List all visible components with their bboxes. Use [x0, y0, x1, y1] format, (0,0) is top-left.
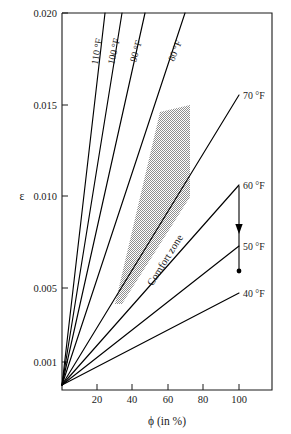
x-axis-title: ϕ (in %)	[148, 415, 186, 428]
x-tick-label-60: 60	[163, 394, 174, 405]
temperature-line-labels-steep: 110 °F 100 °F 90 °F 80 °F	[89, 37, 184, 66]
temp-label-110: 110 °F	[89, 37, 104, 65]
y-tick-label-0020: 0.020	[33, 8, 57, 19]
temp-label-100: 100 °F	[105, 37, 122, 66]
y-axis-tick-labels: 0.020 0.015 0.010 0.005 0.001	[33, 8, 57, 368]
temp-label-90: 90 °F	[127, 39, 144, 63]
process-arrow-endpoint-dot	[237, 269, 242, 274]
temp-label-40: 40 °F	[243, 288, 265, 299]
process-arrow-head-icon	[235, 224, 242, 234]
y-tick-label-0015: 0.015	[33, 100, 57, 111]
x-tick-label-80: 80	[198, 394, 209, 405]
temp-line-70	[62, 95, 239, 385]
psychrometric-chart-figure: 0.020 0.015 0.010 0.005 0.001 ε 20 40 60…	[0, 0, 291, 434]
x-tick-label-20: 20	[92, 394, 103, 405]
temp-label-60: 60 °F	[243, 180, 265, 191]
x-tick-label-100: 100	[231, 394, 247, 405]
temp-label-70: 70 °F	[243, 90, 265, 101]
y-tick-label-0001: 0.001	[33, 357, 57, 368]
y-axis-ticks	[62, 13, 68, 362]
y-tick-label-0010: 0.010	[33, 191, 57, 202]
x-axis-tick-labels: 20 40 60 80 100	[92, 394, 247, 405]
x-axis-ticks	[97, 384, 239, 390]
temp-label-80: 80 °F	[166, 38, 185, 63]
temperature-line-labels-right: 70 °F 60 °F 50 °F 40 °F	[243, 90, 265, 299]
y-axis-title: ε	[20, 190, 25, 202]
temp-line-110	[62, 13, 105, 385]
temp-line-100	[62, 13, 122, 385]
chart-canvas: 0.020 0.015 0.010 0.005 0.001 ε 20 40 60…	[0, 0, 291, 434]
temp-label-50: 50 °F	[243, 241, 265, 252]
y-tick-label-0005: 0.005	[33, 283, 57, 294]
process-arrow-annotation	[235, 186, 242, 273]
temp-line-40	[62, 293, 239, 385]
x-tick-label-40: 40	[127, 394, 138, 405]
